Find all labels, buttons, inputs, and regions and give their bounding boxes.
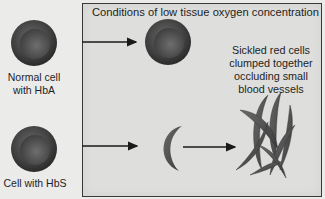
normal-cell-low-o2-icon xyxy=(145,19,191,65)
normal-cell-icon xyxy=(11,20,57,66)
clumped-sickle-cells-icon xyxy=(236,92,295,178)
sickle-cell-icon xyxy=(164,126,182,171)
hbs-cell-label: Cell with HbS xyxy=(0,177,70,190)
sickle-annotation: Sickled red cells clumped together occlu… xyxy=(227,44,315,96)
diagram-graphics xyxy=(0,0,325,199)
hbs-cell-icon xyxy=(11,126,57,172)
normal-cell-label: Normal cell with HbA xyxy=(3,71,65,96)
